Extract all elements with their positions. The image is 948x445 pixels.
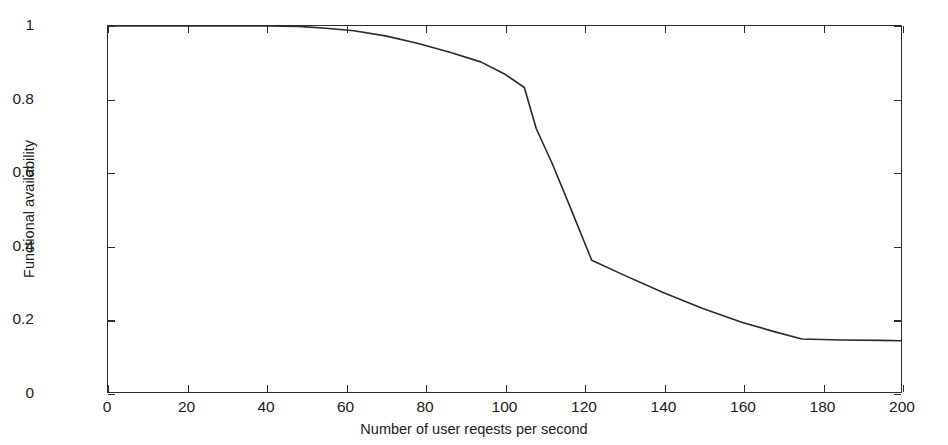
- y-axis-tick-label: 0.6: [12, 163, 34, 181]
- chart-figure: Functional availability 0204060801001201…: [0, 0, 948, 445]
- y-axis-tick-label: 0.4: [12, 237, 34, 255]
- x-axis-tick: [824, 385, 825, 392]
- y-axis-tick: [108, 247, 115, 248]
- x-axis-tick: [108, 385, 109, 392]
- x-axis-tick: [188, 26, 189, 33]
- x-axis-tick: [506, 26, 507, 33]
- x-axis-title: Number of user reqests per second: [0, 421, 948, 437]
- y-axis-tick: [108, 173, 115, 174]
- x-axis-tick-label: 20: [178, 398, 195, 416]
- y-axis-tick-label: 0: [25, 384, 34, 402]
- y-axis-tick: [894, 320, 901, 321]
- y-axis-tick: [108, 320, 115, 321]
- x-axis-tick: [665, 26, 666, 33]
- y-axis-tick-label: 1: [25, 16, 34, 34]
- x-axis-tick: [267, 385, 268, 392]
- x-axis-tick: [824, 26, 825, 33]
- y-axis-title-container: Functional availability: [18, 0, 40, 445]
- series-line-chart: [108, 26, 901, 392]
- x-axis-tick: [744, 26, 745, 33]
- y-axis-tick: [894, 247, 901, 248]
- y-axis-tick: [894, 173, 901, 174]
- x-axis-tick-label: 40: [257, 398, 274, 416]
- x-axis-tick-label: 60: [337, 398, 354, 416]
- plot-area: [107, 25, 902, 393]
- y-axis-tick-label: 0.2: [12, 310, 34, 328]
- x-axis-tick-label: 80: [416, 398, 433, 416]
- y-axis-tick: [894, 26, 901, 27]
- y-axis-title: Functional availability: [21, 140, 37, 278]
- x-axis-tick: [585, 26, 586, 33]
- x-axis-tick: [347, 385, 348, 392]
- x-axis-tick: [267, 26, 268, 33]
- x-axis-tick-label: 120: [571, 398, 597, 416]
- series-line-functional-availability: [108, 26, 901, 341]
- x-axis-tick: [585, 385, 586, 392]
- x-axis-tick: [426, 26, 427, 33]
- x-axis-tick-label: 200: [889, 398, 915, 416]
- x-axis-tick-label: 140: [651, 398, 677, 416]
- y-axis-tick: [108, 100, 115, 101]
- x-axis-tick: [426, 385, 427, 392]
- y-axis-tick: [894, 394, 901, 395]
- x-axis-tick-label: 160: [730, 398, 756, 416]
- x-axis-tick: [744, 385, 745, 392]
- x-axis-tick-label: 0: [103, 398, 112, 416]
- y-axis-tick: [108, 394, 115, 395]
- x-axis-tick: [188, 385, 189, 392]
- y-axis-tick-label: 0.8: [12, 90, 34, 108]
- x-axis-tick-label: 180: [810, 398, 836, 416]
- y-axis-tick: [108, 26, 115, 27]
- x-axis-tick: [665, 385, 666, 392]
- x-axis-tick: [347, 26, 348, 33]
- x-axis-tick: [903, 385, 904, 392]
- x-axis-tick: [506, 385, 507, 392]
- x-axis-tick: [903, 26, 904, 33]
- y-axis-tick: [894, 100, 901, 101]
- x-axis-tick-label: 100: [492, 398, 518, 416]
